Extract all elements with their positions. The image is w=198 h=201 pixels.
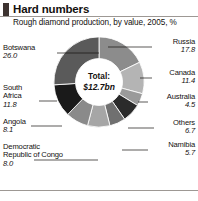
- chart-title: Hard numbers: [13, 2, 89, 16]
- title-divider: [0, 16, 198, 17]
- label-namibia-value: 5.7: [168, 149, 195, 157]
- pie-slice-botswana: [54, 37, 99, 85]
- chart-subtitle: Rough diamond production, by value, 2005…: [13, 18, 177, 28]
- label-botswana: Botswana 26.0: [3, 44, 35, 61]
- label-drc-value: 8.0: [3, 160, 63, 168]
- donut-chart: [52, 35, 146, 129]
- label-canada: Canada 11.4: [169, 69, 195, 86]
- label-namibia: Namibia 5.7: [168, 141, 195, 158]
- label-others-value: 6.7: [173, 127, 195, 135]
- label-canada-value: 11.4: [169, 77, 195, 85]
- chart-figure: Hard numbers Rough diamond production, b…: [0, 0, 198, 201]
- label-south-africa: South Africa 11.8: [3, 84, 22, 109]
- label-australia-value: 4.5: [167, 101, 195, 109]
- label-south-africa-value: 11.8: [3, 101, 22, 109]
- label-drc: Democratic Republic of Congo 8.0: [3, 143, 63, 168]
- label-angola: Angola 8.1: [3, 118, 26, 135]
- label-russia-value: 17.8: [173, 46, 195, 54]
- label-angola-value: 8.1: [3, 126, 26, 134]
- chart-plot-area: Total: $12.7bn Botswana 26.0 South Af: [0, 30, 198, 190]
- label-russia: Russia 17.8: [173, 38, 195, 55]
- footer-divider: [0, 190, 198, 191]
- label-others: Others 6.7: [173, 119, 195, 136]
- publication-brand-mark: [3, 3, 9, 16]
- label-australia: Australia 4.5: [167, 93, 195, 110]
- label-botswana-value: 26.0: [3, 52, 35, 60]
